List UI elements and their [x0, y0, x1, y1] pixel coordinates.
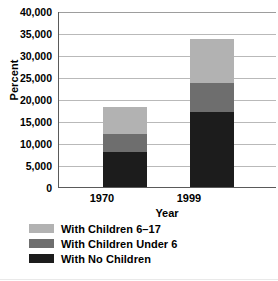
- bar-segment-children-6-17: [103, 107, 147, 135]
- bar-segment-children-under-6: [103, 134, 147, 152]
- legend-label: With No Children: [61, 253, 151, 265]
- plot-area: [58, 12, 276, 188]
- bar-1970: [103, 107, 147, 187]
- bar-segment-children-6-17: [190, 39, 234, 83]
- y-tick-label: 5,000: [26, 161, 52, 172]
- y-tick-label: 30,000: [20, 51, 52, 62]
- y-tick-label: 20,000: [20, 95, 52, 106]
- legend-label: With Children 6–17: [61, 223, 161, 235]
- y-tick-label: 35,000: [20, 29, 52, 40]
- legend-item: With Children 6–17: [29, 222, 177, 235]
- legend: With Children 6–17 With Children Under 6…: [29, 222, 177, 265]
- y-tick-label: 15,000: [20, 117, 52, 128]
- bar-segment-children-under-6: [190, 83, 234, 113]
- y-tick-label: 40,000: [20, 7, 52, 18]
- x-tick-label-1970: 1970: [67, 192, 137, 204]
- y-tick-label: 10,000: [20, 139, 52, 150]
- legend-swatch-children-under-6: [29, 239, 54, 248]
- stacked-bar-chart: Percent 40,000 35,000 30,000 25,000 20,0…: [0, 0, 278, 281]
- bar-segment-no-children: [103, 152, 147, 187]
- bar-group: [59, 12, 276, 187]
- bar-segment-no-children: [190, 112, 234, 187]
- y-tick-label: 0: [46, 183, 52, 194]
- bar-1999: [190, 39, 234, 187]
- legend-swatch-no-children: [29, 254, 54, 263]
- legend-item: With No Children: [29, 252, 177, 265]
- legend-label: With Children Under 6: [61, 238, 177, 250]
- legend-swatch-children-6-17: [29, 224, 54, 233]
- x-axis-title: Year: [58, 207, 276, 219]
- y-tick-label: 25,000: [20, 73, 52, 84]
- legend-item: With Children Under 6: [29, 237, 177, 250]
- page-edge-artifact: [0, 279, 278, 280]
- y-axis-tick-labels: 40,000 35,000 30,000 25,000 20,000 15,00…: [0, 0, 56, 200]
- x-tick-label-1999: 1999: [154, 192, 224, 204]
